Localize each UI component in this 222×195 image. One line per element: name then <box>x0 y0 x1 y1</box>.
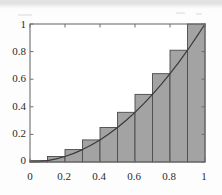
bar-rect <box>83 140 101 162</box>
bar-rect <box>100 128 118 163</box>
bar-rect <box>153 74 171 162</box>
y-tick-label: 0 <box>4 155 26 166</box>
x-tick-label: 0.6 <box>123 171 145 182</box>
bar-rect <box>188 24 206 162</box>
y-tick-label: 0.6 <box>4 73 26 84</box>
y-tick-label: 0.4 <box>4 101 26 112</box>
figure-container: 1 0.8 0.6 0.4 0.2 0 0 0.2 0.4 0.6 0.8 1 <box>0 0 222 195</box>
x-tick-label: 0.4 <box>88 171 110 182</box>
y-tick-label: 0.2 <box>4 128 26 139</box>
x-tick-label: 0 <box>19 171 41 182</box>
x-tick-label: 0.2 <box>53 171 75 182</box>
y-tick-label: 0.8 <box>4 46 26 57</box>
x-tick-label: 0.8 <box>158 171 180 182</box>
riemann-sum-chart <box>0 0 222 195</box>
y-tick-label: 1 <box>4 19 26 30</box>
bar-rect <box>170 50 188 162</box>
x-tick-label: 1 <box>193 171 215 182</box>
